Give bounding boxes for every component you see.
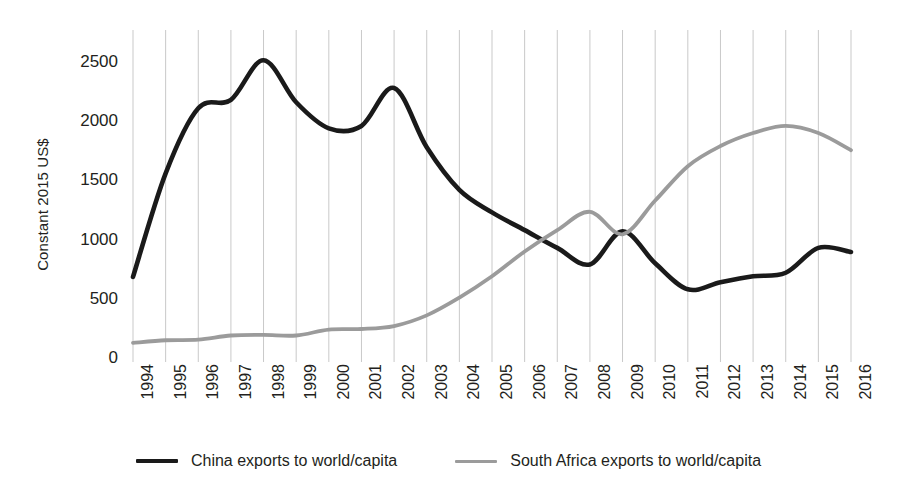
legend-item-china: China exports to world/capita	[136, 452, 397, 470]
x-tick-label: 1996	[204, 364, 222, 400]
x-tick-label: 2001	[367, 364, 385, 400]
y-tick-label: 500	[44, 289, 118, 309]
plot-svg	[133, 32, 851, 358]
gridlines	[133, 30, 851, 362]
y-tick-label: 0	[44, 348, 118, 368]
x-tick-label: 1995	[172, 364, 190, 400]
x-tick-label: 2000	[335, 364, 353, 400]
line-chart-figure: Constant 2015 US$ 05001000150020002500 1…	[0, 0, 897, 499]
x-tick-label: 2011	[694, 364, 712, 398]
x-tick-label: 2005	[498, 364, 516, 400]
x-tick-label: 1997	[237, 364, 255, 400]
x-tick-label: 2004	[465, 364, 483, 400]
x-tick-label: 2014	[792, 364, 810, 400]
legend-item-south-africa: South Africa exports to world/capita	[455, 452, 761, 470]
x-tick-label: 2015	[824, 364, 842, 400]
y-tick-label: 1000	[44, 230, 118, 250]
x-tick-label: 2013	[759, 364, 777, 400]
x-tick-label: 2002	[400, 364, 418, 400]
x-tick-label: 2010	[661, 364, 679, 400]
x-tick-label: 1999	[302, 364, 320, 400]
x-tick-label: 2006	[531, 364, 549, 400]
y-tick-label: 2500	[44, 52, 118, 72]
legend-label-china: China exports to world/capita	[191, 452, 397, 470]
y-tick-label: 2000	[44, 111, 118, 131]
x-tick-label: 2016	[857, 364, 875, 400]
x-tick-label: 1994	[139, 364, 157, 400]
x-tick-label: 1998	[270, 364, 288, 400]
y-tick-label: 1500	[44, 170, 118, 190]
chart-legend: China exports to world/capita South Afri…	[0, 452, 897, 470]
plot-area	[133, 32, 851, 358]
x-tick-label: 2009	[629, 364, 647, 400]
legend-label-south-africa: South Africa exports to world/capita	[510, 452, 761, 470]
x-tick-label: 2007	[563, 364, 581, 400]
legend-swatch-south-africa	[455, 460, 497, 463]
x-tick-label: 2012	[726, 364, 744, 400]
y-axis-tick-labels: 05001000150020002500	[44, 0, 118, 499]
x-tick-label: 2008	[596, 364, 614, 400]
x-tick-label: 2003	[433, 364, 451, 400]
legend-swatch-china	[136, 459, 178, 463]
x-axis-tick-labels: 1994199519961997199819992000200120022003…	[133, 364, 851, 434]
